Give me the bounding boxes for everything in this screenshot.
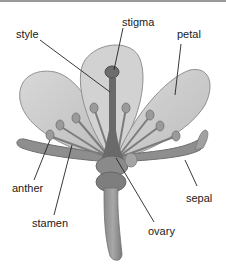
label-petal: petal: [177, 28, 201, 40]
ovary-leader: [116, 158, 154, 222]
label-stamen: stamen: [32, 217, 68, 229]
label-style: style: [16, 28, 39, 40]
stigma: [105, 66, 119, 78]
label-ovary: ovary: [148, 225, 175, 237]
label-stigma: stigma: [122, 16, 154, 28]
stem: [104, 188, 122, 260]
right-sepal-tip: [195, 130, 208, 150]
label-anther: anther: [12, 182, 43, 194]
sepal-leader: [185, 160, 197, 186]
label-sepal: sepal: [186, 192, 212, 204]
